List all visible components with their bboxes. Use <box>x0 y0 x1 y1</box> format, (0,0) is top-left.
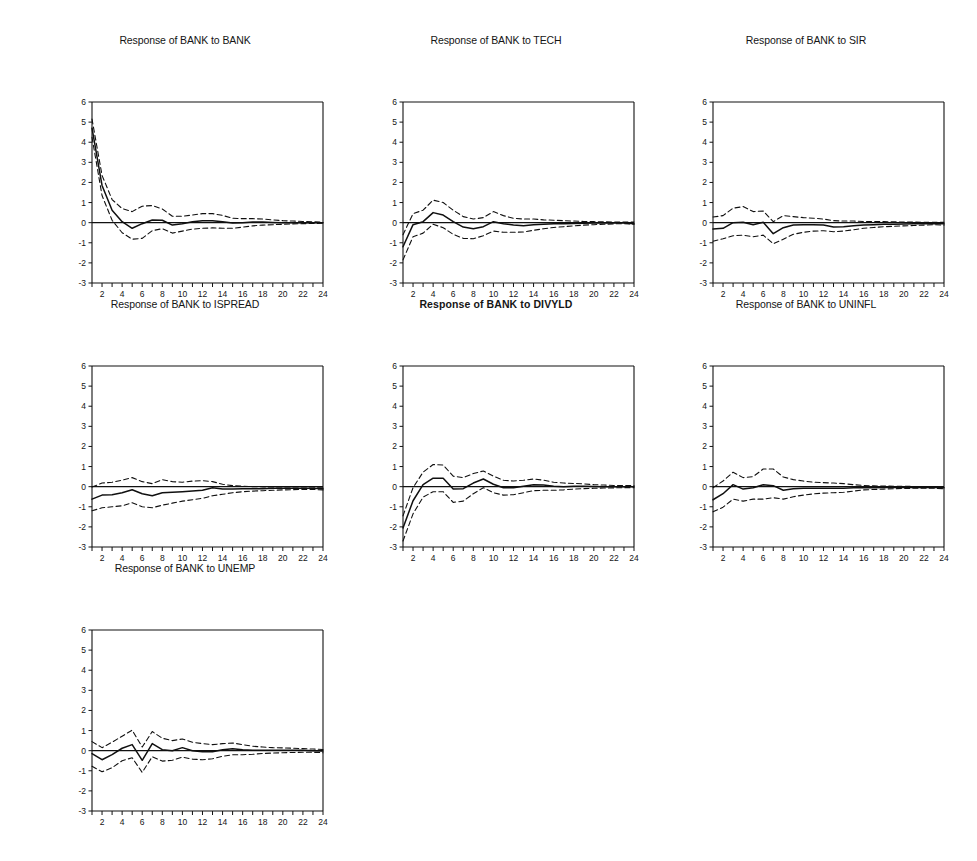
x-tick-label: 8 <box>781 553 786 562</box>
series-upper-ci <box>403 200 634 235</box>
x-tick-label: 12 <box>819 553 829 562</box>
y-tick-label: -3 <box>78 806 86 816</box>
x-tick-label: 4 <box>741 553 746 562</box>
x-tick-label: 16 <box>859 553 869 562</box>
axis-frame <box>713 102 944 283</box>
y-tick-label: 6 <box>81 97 86 107</box>
y-tick-label: -2 <box>699 258 707 268</box>
y-tick-label: -2 <box>699 522 707 532</box>
x-axis-ticks: 24681012141618202224 <box>403 547 639 562</box>
chart-panel: Response of BANK to TECH6543210-1-2-3246… <box>341 30 651 298</box>
y-tick-label: 1 <box>392 462 397 472</box>
chart-panel: Response of BANK to ISPREAD6543210-1-2-3… <box>30 294 340 562</box>
y-tick-label: 1 <box>702 462 707 472</box>
series-response <box>403 213 634 247</box>
x-tick-label: 18 <box>569 553 579 562</box>
series-upper-ci <box>713 207 944 223</box>
y-tick-label: 4 <box>702 401 707 411</box>
chart-panel: Response of BANK to SIR6543210-1-2-32468… <box>651 30 961 298</box>
y-tick-label: -2 <box>78 786 86 796</box>
axis-frame <box>713 366 944 547</box>
series-lower-ci <box>92 752 323 772</box>
y-tick-label: 3 <box>81 421 86 431</box>
y-axis-ticks: 6543210-1-2-3 <box>699 97 713 288</box>
series-upper-ci <box>92 478 323 488</box>
y-tick-label: 2 <box>702 441 707 451</box>
series-response <box>713 222 944 233</box>
y-tick-label: -1 <box>699 238 707 248</box>
y-tick-label: 6 <box>702 97 707 107</box>
series-lower-ci <box>713 488 944 512</box>
y-tick-label: 3 <box>81 157 86 167</box>
y-tick-label: -1 <box>78 238 86 248</box>
y-tick-label: -1 <box>78 502 86 512</box>
y-tick-label: -2 <box>78 258 86 268</box>
y-tick-label: 2 <box>81 705 86 715</box>
y-tick-label: 5 <box>81 117 86 127</box>
x-tick-label: 16 <box>238 817 248 826</box>
x-tick-label: 20 <box>589 553 599 562</box>
y-tick-label: 4 <box>392 137 397 147</box>
x-tick-label: 24 <box>629 553 639 562</box>
plot-area: 6543210-1-2-324681012141618202224 <box>651 294 961 562</box>
y-axis-ticks: 6543210-1-2-3 <box>699 361 713 552</box>
x-tick-label: 12 <box>509 553 519 562</box>
y-axis-ticks: 6543210-1-2-3 <box>389 361 403 552</box>
x-tick-label: 18 <box>879 553 889 562</box>
chart-panel: Response of BANK to DIVYLD6543210-1-2-32… <box>341 294 651 562</box>
y-tick-label: 1 <box>81 726 86 736</box>
y-tick-label: 6 <box>702 361 707 371</box>
y-tick-label: 2 <box>392 441 397 451</box>
x-tick-label: 10 <box>178 817 188 826</box>
y-tick-label: -3 <box>389 278 397 288</box>
axis-frame <box>92 366 323 547</box>
x-tick-label: 22 <box>609 553 619 562</box>
y-tick-label: 0 <box>702 482 707 492</box>
y-tick-label: 2 <box>81 441 86 451</box>
x-tick-label: 8 <box>160 817 165 826</box>
y-tick-label: 3 <box>392 421 397 431</box>
y-tick-label: 0 <box>702 218 707 228</box>
x-tick-label: 6 <box>451 553 456 562</box>
x-tick-label: 16 <box>549 553 559 562</box>
x-tick-label: 10 <box>489 553 499 562</box>
y-tick-label: 4 <box>702 137 707 147</box>
y-tick-label: 3 <box>81 685 86 695</box>
x-tick-label: 20 <box>899 553 909 562</box>
y-tick-label: -1 <box>699 502 707 512</box>
y-tick-label: 2 <box>702 177 707 187</box>
y-axis-ticks: 6543210-1-2-3 <box>78 97 92 288</box>
y-tick-label: 5 <box>702 381 707 391</box>
plot-area: 6543210-1-2-324681012141618202224 <box>341 30 651 298</box>
y-tick-label: -1 <box>389 502 397 512</box>
x-tick-label: 18 <box>258 817 268 826</box>
chart-panel: Response of BANK to UNEMP6543210-1-2-324… <box>30 558 340 826</box>
y-tick-label: 6 <box>81 625 86 635</box>
x-tick-label: 4 <box>120 817 125 826</box>
y-tick-label: 6 <box>81 361 86 371</box>
y-tick-label: -1 <box>78 766 86 776</box>
y-tick-label: 5 <box>392 381 397 391</box>
x-tick-label: 10 <box>799 553 809 562</box>
y-tick-label: 6 <box>392 97 397 107</box>
x-tick-label: 6 <box>140 817 145 826</box>
plot-area: 6543210-1-2-324681012141618202224 <box>30 558 340 826</box>
y-tick-label: -3 <box>389 542 397 552</box>
y-tick-label: 4 <box>81 137 86 147</box>
series-upper-ci <box>403 465 634 516</box>
y-tick-label: 1 <box>81 198 86 208</box>
y-tick-label: 4 <box>81 665 86 675</box>
y-axis-ticks: 6543210-1-2-3 <box>78 361 92 552</box>
y-tick-label: 3 <box>702 421 707 431</box>
x-tick-label: 14 <box>218 817 228 826</box>
plot-area: 6543210-1-2-324681012141618202224 <box>30 30 340 298</box>
y-tick-label: -2 <box>389 522 397 532</box>
impulse-response-grid: Response of BANK to BANK6543210-1-2-3246… <box>0 0 977 861</box>
chart-panel: Response of BANK to BANK6543210-1-2-3246… <box>30 30 340 298</box>
y-tick-label: 3 <box>702 157 707 167</box>
series-upper-ci <box>92 119 323 222</box>
plot-area: 6543210-1-2-324681012141618202224 <box>341 294 651 562</box>
x-axis-ticks: 24681012141618202224 <box>713 547 949 562</box>
x-tick-label: 2 <box>721 553 726 562</box>
y-tick-label: -2 <box>78 522 86 532</box>
